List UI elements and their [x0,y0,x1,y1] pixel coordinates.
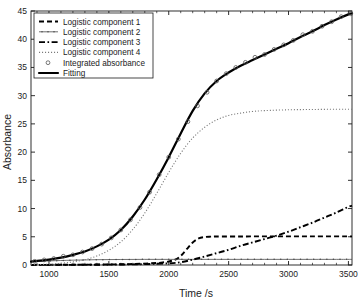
y-tick-label: 35 [18,62,28,72]
legend-dot-icon [47,31,49,33]
legend-label: Logistic component 3 [63,38,141,47]
legend-label: Logistic component 4 [63,48,141,57]
chart-legend: Logistic component 1Logistic component 2… [34,13,153,78]
series-dot [320,259,322,261]
series-dot [96,259,98,261]
series-dot [306,259,308,261]
series-dot [339,259,341,261]
series-dot [254,259,256,261]
series-dot [76,259,78,261]
series-dot [227,259,229,261]
series-dot [287,259,289,261]
series-dot [175,259,177,261]
series-dot [148,259,150,261]
x-tick-label: 1500 [99,269,118,279]
series-dot [260,259,262,261]
chart-figure: 1000150020002500300035000510152025303540… [0,0,359,303]
series-dot [122,259,124,261]
series-dot [201,259,203,261]
series-dot [346,259,348,261]
legend-label: Logistic component 2 [63,28,141,37]
series-dot [69,259,71,261]
y-tick-label: 40 [18,34,28,44]
x-tick-label: 2000 [159,269,178,279]
y-tick-label: 20 [18,147,28,157]
absorbance-vs-time-chart: 1000150020002500300035000510152025303540… [0,0,359,303]
series-dot [135,259,137,261]
y-tick-label: 25 [18,119,28,129]
y-tick-label: 10 [18,204,28,214]
series-dot [89,259,91,261]
series-dot [333,259,335,261]
series-dot [188,259,190,261]
series-dot [247,259,249,261]
x-axis-title: Time /s [179,287,213,299]
y-tick-label: 30 [18,91,28,101]
series-dot [234,259,236,261]
legend-label: Logistic component 1 [63,18,141,27]
series-dot [128,259,130,261]
series-dot [273,259,275,261]
series-dot [155,259,157,261]
x-tick-label: 3500 [339,269,358,279]
x-tick-label: 2500 [219,269,238,279]
series-dot [326,259,328,261]
x-tick-label: 1000 [40,269,59,279]
y-tick-label: 0 [22,260,27,270]
series-dot [63,260,64,262]
series-dot [214,259,216,261]
series-dot [240,259,242,261]
series-dot [168,259,170,261]
x-tick-label: 3000 [279,269,298,279]
series-dot [161,259,163,261]
series-dot [102,259,104,261]
series-dot [56,260,58,262]
series-dot [313,259,315,261]
series-dot [142,259,144,261]
series-dot [109,259,111,261]
series-dot [280,259,282,261]
series-dot [181,259,183,261]
y-axis-title: Absorbance [1,114,13,170]
legend-label: Integrated absorbance [63,59,145,68]
series-dot [115,259,117,261]
y-tick-label: 45 [18,6,28,16]
series-dot [221,259,223,261]
legend-label: Fitting [63,69,86,78]
series-dot [300,259,302,261]
legend-dot-icon [41,31,43,33]
legend-dot-icon [53,31,55,33]
y-tick-label: 5 [22,232,27,242]
series-dot [267,259,269,261]
y-tick-label: 15 [18,175,28,185]
series-dot [293,259,295,261]
series-dot [208,259,210,261]
